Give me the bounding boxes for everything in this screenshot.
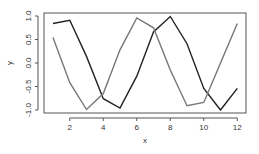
y-tick-label: -0.5 <box>24 79 33 93</box>
x-tick-label: 12 <box>233 123 242 132</box>
x-tick-label: 2 <box>68 123 73 132</box>
x-tick-label: 10 <box>199 123 208 132</box>
series-lines <box>53 17 237 111</box>
x-axis: 24681012 <box>68 118 243 132</box>
y-tick-label: 1.0 <box>24 10 33 22</box>
y-tick-label: 0.5 <box>24 33 33 45</box>
plot-frame <box>44 13 246 113</box>
x-tick-label: 4 <box>101 123 106 132</box>
y-axis: -1.0-0.50.00.51.0 <box>24 10 38 117</box>
x-tick-label: 8 <box>168 123 173 132</box>
x-tick-label: 6 <box>135 123 140 132</box>
y-tick-label: 0.0 <box>24 57 33 69</box>
y-axis-label: y <box>5 61 14 65</box>
series-line-1 <box>53 17 237 111</box>
line-chart: -1.0-0.50.00.51.0 24681012 x y <box>0 0 259 154</box>
y-tick-label: -1.0 <box>24 103 33 117</box>
x-axis-label: x <box>143 136 147 145</box>
